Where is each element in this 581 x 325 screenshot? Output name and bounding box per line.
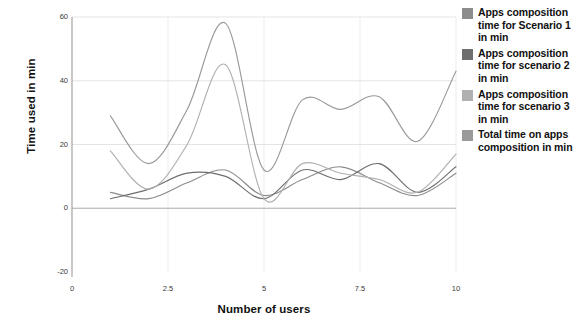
legend-item-label: Apps composition time for Scenario 1 in … bbox=[478, 6, 581, 44]
x-axis-label: Number of users bbox=[72, 303, 456, 315]
legend-color-swatch bbox=[462, 130, 473, 141]
legend-color-swatch bbox=[462, 49, 473, 60]
legend-item-label: Apps composition time for scenario 2 in … bbox=[478, 47, 581, 85]
legend-item-label: Total time on apps composition in min bbox=[478, 128, 581, 153]
series-line bbox=[110, 64, 456, 202]
legend-item[interactable]: Total time on apps composition in min bbox=[462, 128, 581, 153]
legend-color-swatch bbox=[462, 8, 473, 19]
legend-item[interactable]: Apps composition time for scenario 2 in … bbox=[462, 47, 581, 85]
legend-color-swatch bbox=[462, 90, 473, 101]
legend-item[interactable]: Apps composition time for Scenario 1 in … bbox=[462, 6, 581, 44]
chart-legend: Apps composition time for Scenario 1 in … bbox=[462, 6, 581, 157]
series-line bbox=[110, 22, 456, 171]
legend-item-label: Apps composition time for scenario 3 in … bbox=[478, 88, 581, 126]
legend-item[interactable]: Apps composition time for scenario 3 in … bbox=[462, 88, 581, 126]
line-chart: Time used in min 6040200-20 02.557.510 N… bbox=[0, 0, 581, 325]
